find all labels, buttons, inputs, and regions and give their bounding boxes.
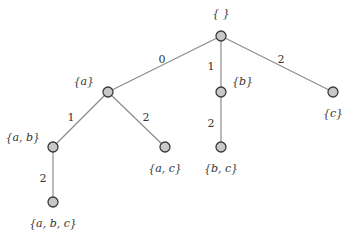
node-c [328, 87, 338, 97]
edge-label: 1 [68, 111, 75, 124]
node-label-root: { } [212, 7, 230, 20]
node-label-ab: {a, b} [5, 131, 40, 144]
node-label-abc: {a, b, c} [29, 217, 77, 230]
edge-label: 2 [278, 53, 285, 66]
node-a [103, 87, 113, 97]
node-label-ac: {a, c} [148, 162, 182, 175]
node-ab [48, 142, 58, 152]
node-root [216, 31, 226, 41]
edge-label: 0 [159, 53, 166, 66]
node-ac [160, 142, 170, 152]
node-bc [216, 142, 226, 152]
node-label-b: {b} [232, 75, 253, 88]
node-label-c: {c} [323, 107, 343, 120]
tree-diagram: 0121222 { }{a}{b}{c}{a, b}{a, c}{b, c}{a… [0, 0, 357, 234]
edge-label: 1 [208, 60, 215, 73]
edge-a-ab [53, 92, 108, 147]
node-label-bc: {b, c} [204, 162, 238, 175]
node-abc [48, 197, 58, 207]
node-label-a: {a} [73, 75, 94, 88]
edge-a-ac [108, 92, 165, 147]
node-labels-layer: { }{a}{b}{c}{a, b}{a, c}{b, c}{a, b, c} [5, 7, 343, 230]
edges-layer [53, 36, 333, 202]
node-b [216, 87, 226, 97]
edge-label: 2 [143, 111, 150, 124]
edge-label: 2 [208, 117, 215, 130]
nodes-layer [48, 31, 338, 207]
edge-label: 2 [40, 172, 47, 185]
